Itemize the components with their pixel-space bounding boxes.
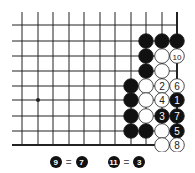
black-stone-icon [139,34,154,49]
black-stone-icon: 1 [170,93,185,108]
move-number-label: 8 [174,140,180,151]
white-stone-icon [139,93,154,108]
caption-stone-3: 3 [133,156,145,168]
white-stone-icon [139,109,154,124]
move-number-label: 10 [173,53,182,62]
white-stone-icon: 10 [170,49,185,64]
white-stone-icon: 6 [170,79,185,94]
black-stone-icon [124,124,139,139]
move-number-label: 5 [174,126,180,137]
white-stone-icon: 4 [155,93,170,108]
grid-lines [12,12,177,145]
move-number-label: 7 [174,111,180,122]
white-stone-icon: 2 [155,79,170,94]
star-points [36,98,40,102]
star-point-icon [36,98,40,102]
go-board: 1026413758 [0,0,195,152]
black-stone-icon [124,93,139,108]
white-stone-icon [155,64,170,79]
move-number-label: 2 [159,81,165,92]
white-stone-icon [155,49,170,64]
move-number-label: 6 [174,81,180,92]
black-stone-icon: 3 [155,109,170,124]
move-caption: 9 = 7 11 = 3 [0,154,195,170]
caption-stone-7: 7 [76,156,88,168]
black-stone-icon [155,34,170,49]
move-number-label: 4 [159,95,165,106]
black-stone-icon [170,34,185,49]
stones: 1026413758 [124,34,185,152]
black-stone-icon [139,124,154,139]
black-stone-icon: 7 [170,109,185,124]
black-stone-icon [124,79,139,94]
caption-equals-2: = [124,157,130,168]
move-number-label: 1 [174,95,180,106]
white-stone-icon [139,79,154,94]
caption-stone-11: 11 [108,156,120,168]
caption-equals-1: = [66,157,72,168]
white-stone-icon [155,124,170,139]
caption-stone-9: 9 [50,156,62,168]
black-stone-icon: 5 [170,124,185,139]
black-stone-icon [124,109,139,124]
black-stone-icon [139,49,154,64]
white-stone-icon [155,138,170,152]
white-stone-icon: 8 [170,138,185,152]
move-number-label: 3 [159,111,165,122]
black-stone-icon [139,64,154,79]
